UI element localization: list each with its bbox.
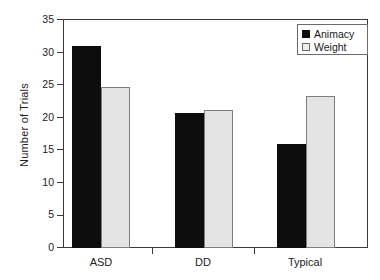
bar-dd-weight <box>204 110 233 248</box>
y-axis-title: Number of Trials <box>18 10 38 240</box>
y-tick-label-0: 0 <box>14 242 54 253</box>
y-tick-label-35: 35 <box>14 14 54 25</box>
x-tick-mark-1 <box>152 248 153 254</box>
bar-asd-weight <box>101 87 130 248</box>
y-tick-label-15: 15 <box>14 144 54 155</box>
bar-asd-animacy <box>72 46 101 248</box>
bar-chart: Number of Trials 35 30 25 20 15 10 5 0 A… <box>0 0 380 280</box>
x-tick-mark-2 <box>254 248 255 254</box>
x-axis-label-typical: Typical <box>260 256 350 268</box>
y-tick-label-20: 20 <box>14 112 54 123</box>
legend: Animacy Weight <box>297 24 368 55</box>
light-square-icon <box>302 43 310 51</box>
x-axis-label-dd: DD <box>158 256 248 268</box>
legend-label-weight: Weight <box>314 42 347 53</box>
legend-item-weight: Weight <box>302 41 367 53</box>
bar-typical-weight <box>306 96 335 248</box>
x-axis-label-asd: ASD <box>56 256 146 268</box>
bar-typical-animacy <box>277 144 306 248</box>
legend-label-animacy: Animacy <box>314 29 354 40</box>
y-tick-label-25: 25 <box>14 79 54 90</box>
y-tick-label-10: 10 <box>14 177 54 188</box>
black-square-icon <box>302 30 310 38</box>
bar-dd-animacy <box>175 113 204 248</box>
y-tick-label-30: 30 <box>14 47 54 58</box>
y-tick-label-5: 5 <box>14 209 54 220</box>
legend-item-animacy: Animacy <box>302 28 367 40</box>
